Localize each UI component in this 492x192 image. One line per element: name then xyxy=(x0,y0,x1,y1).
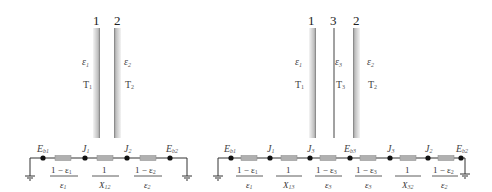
plate-1-temperature: T1 xyxy=(83,79,92,90)
node-label-j2: J2 xyxy=(425,143,432,154)
plate-1-temperature: T1 xyxy=(295,79,304,90)
ground-icon xyxy=(213,176,223,180)
node-label-eb1: Eb1 xyxy=(36,143,49,154)
svg-text:1: 1 xyxy=(405,165,410,175)
resistor-space-13 xyxy=(281,156,297,161)
resistance-label-1: 1 − ε1 ε1 xyxy=(50,165,78,190)
svg-text:1: 1 xyxy=(286,165,291,175)
svg-text:ε2: ε2 xyxy=(144,180,151,190)
left-diagram: 1 2 ε1 ε2 T1 T2 xyxy=(25,13,192,190)
plate-1-number: 1 xyxy=(308,13,315,28)
ground-wire-left xyxy=(218,158,231,176)
node-j3-right xyxy=(387,155,392,160)
shield-3-emissivity: ε3 xyxy=(335,56,342,68)
plate-2-emissivity: ε2 xyxy=(124,56,131,68)
resistance-label-6: 1 − ε2 ε2 xyxy=(432,165,458,190)
resistance-label-3: 1 − ε3 ε3 xyxy=(315,165,342,190)
shield-3-number: 3 xyxy=(330,13,337,28)
ground-icon xyxy=(182,176,192,180)
node-eb3 xyxy=(347,155,352,160)
svg-text:ε3: ε3 xyxy=(365,180,372,190)
plate-2-number: 2 xyxy=(353,13,360,28)
plate-1 xyxy=(93,28,100,138)
node-eb1 xyxy=(228,155,233,160)
svg-text:1 − ε3: 1 − ε3 xyxy=(356,165,377,175)
resistor-surface-2 xyxy=(140,156,156,161)
node-label-eb3: Eb3 xyxy=(343,143,356,154)
resistance-label-2: 1 X12 xyxy=(92,165,119,190)
svg-text:X13: X13 xyxy=(282,180,295,190)
svg-text:1 − ε1: 1 − ε1 xyxy=(237,165,258,175)
svg-text:ε3: ε3 xyxy=(325,180,332,190)
shield-3-temperature: T3 xyxy=(336,79,345,90)
svg-text:1: 1 xyxy=(102,165,107,175)
right-circuit: Eb1 J1 J3 Eb3 J3 J2 Eb2 1 − ε1 ε1 1 X13 … xyxy=(213,143,470,190)
node-j3-left xyxy=(307,155,312,160)
resistance-label-1: 1 − ε1 ε1 xyxy=(236,165,263,190)
node-j2 xyxy=(425,155,430,160)
svg-text:1 − ε1: 1 − ε1 xyxy=(51,165,72,175)
ground-wire-right xyxy=(170,158,187,176)
ground-icon xyxy=(25,176,35,180)
svg-text:X32: X32 xyxy=(401,180,414,190)
right-diagram: 1 3 2 ε1 ε3 ε2 T1 T3 T2 xyxy=(213,13,470,190)
resistor-surface-3a xyxy=(320,156,336,161)
plate-2-temperature: T2 xyxy=(368,79,377,90)
node-label-j1: J1 xyxy=(267,143,274,154)
node-j1 xyxy=(82,155,87,160)
ground-wire-left xyxy=(30,158,43,176)
node-label-eb2: Eb2 xyxy=(165,143,178,154)
plate-2 xyxy=(114,28,121,138)
resistance-label-3: 1 − ε2 ε2 xyxy=(134,165,162,190)
node-j2 xyxy=(124,155,129,160)
svg-text:1 − ε2: 1 − ε2 xyxy=(135,165,156,175)
node-label-j3-right: J3 xyxy=(387,143,394,154)
plate-2-number: 2 xyxy=(114,13,121,28)
ground-icon xyxy=(460,174,470,178)
svg-text:ε2: ε2 xyxy=(441,180,448,190)
node-label-eb1: Eb1 xyxy=(223,143,236,154)
plate-1-emissivity: ε1 xyxy=(82,56,89,68)
plate-1 xyxy=(309,28,316,138)
node-label-j2: J2 xyxy=(124,143,131,154)
node-label-j3-left: J3 xyxy=(307,143,314,154)
svg-text:ε1: ε1 xyxy=(246,180,253,190)
node-eb2 xyxy=(167,155,172,160)
left-circuit: Eb1 J1 J2 Eb2 1 − ε1 ε1 1 X12 1 − ε2 ε2 xyxy=(25,143,192,190)
resistor-surface-2 xyxy=(438,156,454,161)
plate-1-emissivity: ε1 xyxy=(295,56,302,68)
svg-text:1 − ε2: 1 − ε2 xyxy=(433,165,454,175)
resistor-surface-1 xyxy=(241,156,257,161)
resistor-surface-1 xyxy=(55,156,71,161)
node-eb1 xyxy=(40,155,45,160)
node-eb2 xyxy=(458,155,463,160)
svg-text:1 − ε3: 1 − ε3 xyxy=(316,165,337,175)
plate-2 xyxy=(353,28,360,138)
plate-2-temperature: T2 xyxy=(125,79,134,90)
node-label-eb2: Eb2 xyxy=(455,143,468,154)
plate-1-number: 1 xyxy=(93,13,100,28)
resistor-space-12 xyxy=(97,156,113,161)
radiation-network-diagram: 1 2 ε1 ε2 T1 T2 xyxy=(0,0,492,192)
node-j1 xyxy=(267,155,272,160)
plate-2-emissivity: ε2 xyxy=(367,56,374,68)
resistance-label-4: 1 − ε3 ε3 xyxy=(355,165,382,190)
node-label-j1: J1 xyxy=(82,143,89,154)
svg-text:ε1: ε1 xyxy=(60,180,67,190)
resistance-label-2: 1 X13 xyxy=(276,165,302,190)
svg-text:X12: X12 xyxy=(98,180,111,190)
resistance-label-5: 1 X32 xyxy=(395,165,421,190)
resistor-space-32 xyxy=(400,156,416,161)
resistor-surface-3b xyxy=(360,156,376,161)
